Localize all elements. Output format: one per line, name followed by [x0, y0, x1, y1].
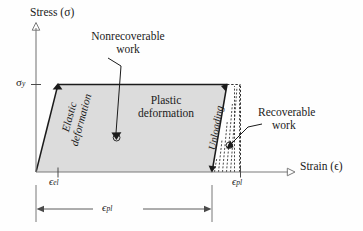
recoverable-work-line1: Recoverable [258, 106, 346, 119]
x-tick-label-epsilon-pl: ϵpl [232, 176, 242, 188]
plastic-deformation-line1: Plastic [124, 94, 208, 107]
sigma-subscript: y [22, 79, 25, 88]
y-tick-label-sigma-y: σy [16, 76, 25, 88]
plastic-deformation-line2: deformation [124, 107, 208, 120]
y-axis-label: Stress (σ) [30, 6, 74, 19]
x-axis-label: Strain (ϵ) [300, 160, 343, 173]
recoverable-leader [226, 124, 262, 149]
epsilon-pl-subscript: pl [236, 178, 242, 187]
dimension-subscript: pl [106, 204, 112, 213]
epsilon-el-subscript: el [53, 178, 58, 187]
nonrecoverable-work-line1: Nonrecoverable [78, 30, 178, 43]
dimension-extension-lines [36, 185, 212, 222]
epsilon-pl-dimension-line [37, 206, 212, 212]
epsilon-pl-dimension-label: ϵpl [102, 201, 112, 213]
x-tick-label-epsilon-el: ϵel [49, 176, 59, 188]
nonrecoverable-work-label: Nonrecoverable work [78, 30, 178, 56]
x-axis-arrowhead [287, 168, 295, 176]
plastic-deformation-label: Plastic deformation [124, 94, 208, 120]
nonrecoverable-work-line2: work [78, 43, 178, 56]
recoverable-work-label: Recoverable work [258, 106, 346, 132]
stress-strain-diagram: Stress (σ) Strain (ϵ) σy ϵel ϵpl Nonreco… [0, 0, 363, 231]
recoverable-work-line2: work [258, 119, 346, 132]
